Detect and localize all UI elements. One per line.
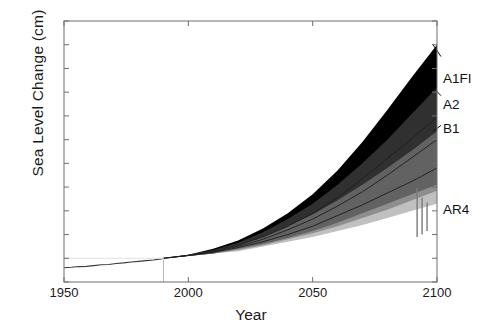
plot-canvas <box>0 0 483 330</box>
observed-line <box>64 258 163 267</box>
sea-level-chart: Sea Level Change (cm) Year 200 180 160 1… <box>0 0 483 330</box>
